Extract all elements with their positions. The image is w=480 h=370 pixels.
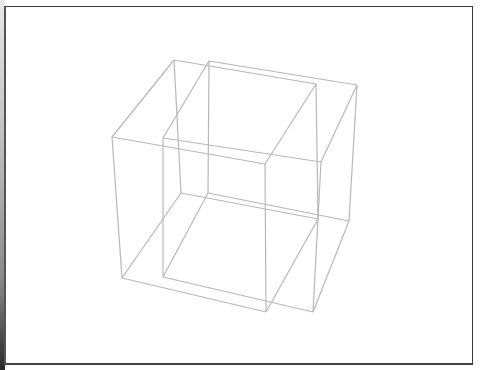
cube-edge — [122, 278, 266, 312]
cube-edge — [112, 60, 174, 137]
cube-edge — [209, 61, 357, 85]
cube-edge — [349, 85, 357, 221]
cube-edge — [208, 61, 209, 193]
cube-edge — [174, 60, 316, 84]
cube-edge — [265, 84, 316, 164]
cube-edge — [122, 193, 181, 278]
cube-edge — [163, 61, 209, 138]
wireframe-cubes-canvas — [0, 0, 480, 370]
cube-edge — [316, 84, 318, 219]
cube-edge — [266, 219, 318, 312]
left-cube — [112, 60, 318, 312]
cube-edge — [112, 137, 122, 278]
cube-edge — [265, 164, 266, 312]
right-cube — [163, 61, 357, 312]
cube-edge — [321, 85, 357, 162]
cube-edge — [163, 277, 313, 312]
cubes-group — [112, 60, 357, 312]
cube-edge — [163, 193, 208, 277]
cube-edge — [174, 60, 181, 193]
cube-edge — [313, 221, 349, 312]
cube-edge — [208, 193, 349, 221]
